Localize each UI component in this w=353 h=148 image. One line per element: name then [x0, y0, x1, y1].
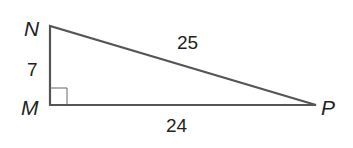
right-angle-marker: [50, 88, 67, 105]
vertex-label-m: M: [21, 97, 39, 118]
vertex-label-p: P: [321, 97, 335, 118]
side-label-mp: 24: [166, 116, 187, 135]
vertex-label-n: N: [24, 18, 39, 39]
side-label-nm: 7: [27, 60, 38, 79]
side-label-np: 25: [177, 33, 198, 52]
